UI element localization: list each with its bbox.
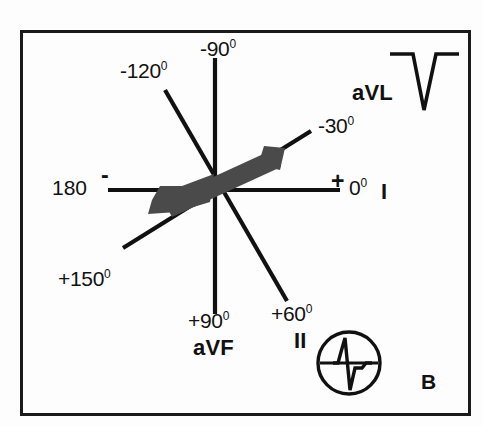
angle-value-neg-30: -30 xyxy=(318,114,347,137)
degree-symbol-0: 0 xyxy=(360,176,366,190)
figure-border-frame xyxy=(22,32,470,415)
degree-symbol-pos-60: 0 xyxy=(306,302,312,316)
angle-label-pos-150: +1500 xyxy=(58,268,110,289)
degree-symbol-neg-30: 0 xyxy=(347,114,353,128)
angle-value-0: 0 xyxy=(349,176,360,199)
angle-label-neg-30: -300 xyxy=(318,115,354,136)
lead-label-I: I xyxy=(381,181,387,203)
angle-value-neg-90: -90 xyxy=(200,37,229,60)
degree-symbol-pos-150: 0 xyxy=(104,267,110,281)
degree-symbol-neg-90: 0 xyxy=(229,37,235,51)
angle-label-180: 180 xyxy=(52,177,87,198)
avl-qs-complex-waveform xyxy=(390,54,459,110)
degree-symbol-pos-90: 0 xyxy=(223,309,229,323)
lead-label-aVF: aVF xyxy=(193,337,234,359)
polarity-marker-positive: + xyxy=(331,170,344,193)
polarity-marker-negative: - xyxy=(101,164,109,187)
angle-value-neg-120: -120 xyxy=(120,59,161,82)
panel-letter-B: B xyxy=(421,371,436,392)
lead-label-aVL: aVL xyxy=(352,82,393,104)
lead-label-II: II xyxy=(294,330,307,352)
angle-label-neg-120: -1200 xyxy=(120,60,167,81)
angle-label-pos-60: +600 xyxy=(271,303,312,324)
degree-symbol-neg-120: 0 xyxy=(161,59,167,73)
ecg-hexaxial-figure: -900 -1200 -300 aVL 180 - + 00 I +1500 +… xyxy=(0,0,483,426)
angle-value-pos-90: +90 xyxy=(188,309,223,332)
angle-label-0: 00 xyxy=(349,177,367,198)
figure-canvas xyxy=(0,0,483,426)
angle-label-neg-90: -900 xyxy=(200,38,236,59)
angle-label-pos-90: +900 xyxy=(188,310,229,331)
angle-value-pos-150: +150 xyxy=(58,267,104,290)
qrs-complex-in-circle xyxy=(318,332,380,394)
angle-value-pos-60: +60 xyxy=(271,302,306,325)
